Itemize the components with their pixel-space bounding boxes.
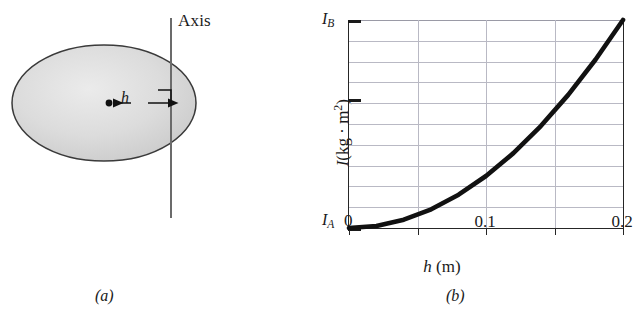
panel-a-diagram: h Axis (a) xyxy=(0,0,300,334)
ellipse-body xyxy=(12,45,196,161)
x-tick-label-2: 0.1 xyxy=(474,212,495,232)
figure-container: h Axis (a) I(kg · m2) IB IA xyxy=(0,0,644,334)
x-tick-label-4: 0.2 xyxy=(611,212,632,232)
y-axis-bottom-subscript: A xyxy=(327,218,334,230)
caption-panel-b: (b) xyxy=(446,288,465,304)
panel-b-chart: I(kg · m2) IB IA 0.10.2 0 h (m) xyxy=(300,0,644,334)
ellipse-axis-diagram xyxy=(0,0,300,334)
x-tick-3 xyxy=(555,228,556,235)
x-axis-unit-text: (m) xyxy=(436,257,461,276)
x-axis-label: h (m) xyxy=(423,258,460,275)
plot-area xyxy=(348,20,623,229)
curve-polyline xyxy=(349,20,623,228)
center-of-mass-dot xyxy=(106,100,113,107)
distance-h-label: h xyxy=(121,90,129,106)
plot-right-edge xyxy=(623,20,624,228)
caption-panel-a: (a) xyxy=(95,288,114,304)
x-tick-1 xyxy=(418,228,419,235)
y-axis-bottom-tick-label: IA xyxy=(322,212,334,230)
axis-text-label: Axis xyxy=(178,12,211,29)
x-axis-origin-label: 0 xyxy=(344,212,353,229)
x-axis-symbol: h xyxy=(423,257,432,276)
moment-of-inertia-curve xyxy=(349,20,623,228)
y-axis-unit-exponent: 2 xyxy=(331,105,345,111)
y-axis-top-subscript: B xyxy=(327,17,334,29)
y-axis-top-tick-label: IB xyxy=(322,11,334,29)
